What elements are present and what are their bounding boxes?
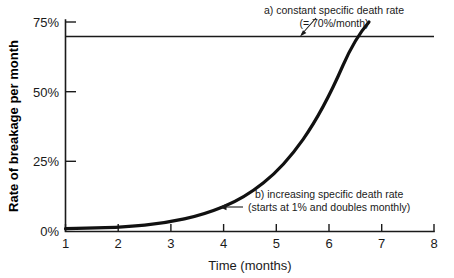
y-tick-label-25: 25% <box>33 154 59 169</box>
x-tick-label-4: 4 <box>220 236 227 251</box>
y-tick-label-0: 0% <box>40 224 59 239</box>
annotation-b-line1: b) increasing specific death rate <box>255 188 403 200</box>
x-tick-label-8: 8 <box>430 236 437 251</box>
x-tick-label-3: 3 <box>167 236 174 251</box>
x-axis-title: Time (months) <box>208 258 291 273</box>
y-tick-label-50: 50% <box>33 85 59 100</box>
annotation-b-line2: (starts at 1% and doubles monthly) <box>248 201 410 213</box>
x-tick-label-5: 5 <box>273 236 280 251</box>
x-tick-label-6: 6 <box>325 236 332 251</box>
y-axis-title: Rate of breakage per month <box>6 40 21 212</box>
annotation-a-line1: a) constant specific death rate <box>264 4 404 16</box>
x-tick-label-2: 2 <box>115 236 122 251</box>
x-tick-label-1: 1 <box>62 236 69 251</box>
y-tick-label-75: 75% <box>33 15 59 30</box>
x-tick-label-7: 7 <box>378 236 385 251</box>
annotation-a-line2: (= 70%/month) <box>299 17 368 29</box>
chart-figure: 75% 50% 25% 0% 1 2 3 4 5 6 7 8 <box>0 0 454 278</box>
breakage-rate-chart: 75% 50% 25% 0% 1 2 3 4 5 6 7 8 <box>0 0 454 278</box>
